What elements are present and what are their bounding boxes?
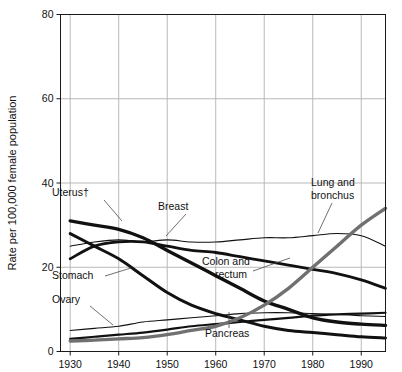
series-annotation-lung-and: Lung and bbox=[311, 176, 355, 188]
leader-line-1 bbox=[166, 214, 186, 236]
series-annotation-ovary: Ovary bbox=[52, 293, 81, 305]
y-tick-label-0: 0 bbox=[48, 345, 54, 357]
series-annotation-colon-and: Colon and bbox=[202, 255, 250, 267]
x-tick-label-1990: 1990 bbox=[350, 358, 374, 370]
leader-line-3 bbox=[318, 203, 332, 233]
y-axis-title-text: Rate per 100,000 female population bbox=[6, 96, 18, 271]
leader-line-5 bbox=[90, 306, 113, 325]
series-annotation-pancreas: Pancreas bbox=[205, 327, 249, 339]
x-tick-label-1950: 1950 bbox=[156, 358, 180, 370]
x-tick-label-1940: 1940 bbox=[107, 358, 131, 370]
x-tick-label-1930: 1930 bbox=[59, 358, 83, 370]
x-tick-label-1970: 1970 bbox=[253, 358, 277, 370]
leader-line-4 bbox=[105, 268, 131, 276]
leader-line-0 bbox=[104, 200, 122, 221]
series-annotation-stomach: Stomach bbox=[52, 269, 94, 281]
x-tick-label-1980: 1980 bbox=[301, 358, 325, 370]
series-annotation-uterus: Uterus† bbox=[52, 186, 89, 198]
x-axis-tick-labels: 1930194019501960197019801990 bbox=[59, 358, 374, 370]
y-tick-label-80: 80 bbox=[42, 8, 54, 20]
series-annotation-breast: Breast bbox=[158, 200, 188, 212]
y-tick-label-60: 60 bbox=[42, 92, 54, 104]
chart-canvas: 020406080 1930194019501960197019801990 U… bbox=[0, 0, 402, 372]
y-axis-title: Rate per 100,000 female population bbox=[6, 96, 18, 271]
series-annotations: Uterus†BreastColon andrectumLung andbron… bbox=[52, 176, 355, 339]
cancer-mortality-line-chart: 020406080 1930194019501960197019801990 U… bbox=[0, 0, 402, 372]
series-annotation-rectum: rectum bbox=[215, 268, 247, 280]
x-tick-label-1960: 1960 bbox=[204, 358, 228, 370]
series-annotation-bronchus: bronchus bbox=[311, 189, 354, 201]
